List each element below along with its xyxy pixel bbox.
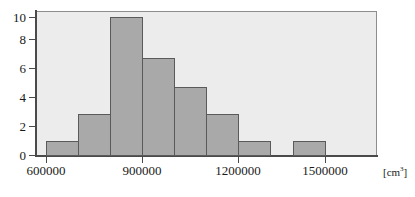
y-tick-label-0: 0 — [20, 149, 27, 162]
histogram-bar — [142, 58, 175, 156]
y-tick-label-8: 8 — [20, 33, 27, 46]
y-tick-label-6: 6 — [20, 62, 27, 75]
histogram-bar — [293, 141, 326, 156]
y-axis-line — [35, 10, 37, 157]
y-tick-label-2: 2 — [20, 120, 27, 133]
x-tick-600000 — [46, 156, 47, 163]
x-tick-900000 — [142, 156, 143, 163]
histogram-bar — [78, 114, 111, 156]
unit-bracket-close-text: ] — [404, 166, 408, 178]
y-tick-0 — [29, 155, 36, 156]
x-tick-label-900000: 900000 — [123, 164, 162, 178]
y-tick-2 — [29, 126, 36, 127]
unit-bracket-open-text: [cm — [383, 166, 400, 178]
y-tick-10 — [29, 17, 36, 18]
x-tick-label-600000: 600000 — [27, 164, 66, 178]
histogram-figure: 0 2 4 6 8 10 600000 900000 1200000 15000… — [0, 0, 415, 197]
y-tick-6 — [29, 68, 36, 69]
x-tick-1200000 — [238, 156, 239, 163]
x-axis-unit-label: [cm3] — [383, 166, 407, 178]
y-tick-8 — [29, 39, 36, 40]
x-tick-1500000 — [325, 156, 326, 163]
y-tick-4 — [29, 97, 36, 98]
y-tick-label-4: 4 — [20, 91, 27, 104]
histogram-bar — [110, 17, 143, 156]
x-tick-label-1200000: 1200000 — [215, 164, 261, 178]
x-tick-label-1500000: 1500000 — [302, 164, 348, 178]
histogram-bar — [206, 114, 239, 156]
histogram-bar — [174, 87, 207, 156]
histogram-bar — [46, 141, 79, 156]
histogram-bar — [238, 141, 271, 156]
y-tick-label-10: 10 — [13, 11, 26, 24]
